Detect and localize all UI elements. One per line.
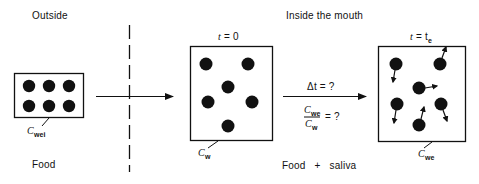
food-outside-box (15, 74, 84, 127)
c-w-label: Cw (198, 147, 211, 160)
delta-t-label: Δt = ? (307, 81, 335, 92)
ratio-denominator: Cw (305, 118, 318, 131)
equilibrium-state-box (379, 47, 466, 149)
food-label: Food (32, 159, 56, 170)
c-we-label: Cwe (418, 148, 435, 161)
inside-mouth-label: Inside the mouth (286, 10, 363, 21)
ratio-equals-label: = ? (325, 111, 340, 122)
time-zero-label: t = 0 (218, 31, 239, 42)
ratio-numerator: Cwe (304, 104, 321, 117)
food-saliva-label: Food + saliva (282, 160, 356, 171)
time-equilibrium-label: t = te (410, 31, 432, 44)
c-wei-label: Cwei (27, 125, 46, 138)
initial-state-box (191, 47, 273, 149)
outside-label: Outside (32, 10, 68, 21)
diagram-canvas (0, 0, 479, 184)
